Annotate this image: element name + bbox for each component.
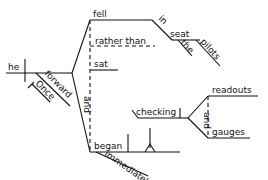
word-in: in (157, 13, 170, 26)
word-fell: fell (93, 9, 107, 19)
word-gauges: gauges (212, 127, 245, 137)
word-and-2: and (202, 112, 212, 129)
word-checking: checking (136, 107, 176, 117)
word-pilots: pilots (199, 37, 223, 62)
word-readouts: readouts (212, 85, 252, 95)
word-sat: sat (94, 59, 108, 69)
word-and: and (82, 96, 92, 113)
sentence-diagram: he forward Once and fell in seat the pil… (0, 0, 268, 180)
word-rather-than: rather than (95, 36, 146, 46)
word-he: he (8, 62, 20, 72)
fork-upper (72, 20, 90, 73)
word-immediately: immediately (103, 148, 155, 180)
